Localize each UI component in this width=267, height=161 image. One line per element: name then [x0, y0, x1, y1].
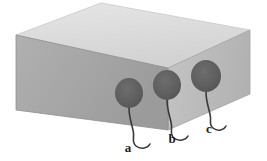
marker-a-blob	[115, 78, 143, 108]
marker-c-label: c	[206, 121, 212, 136]
figure-container: abc Rectangular block with three attache…	[0, 0, 267, 161]
marker-b-label: b	[168, 131, 175, 146]
marker-c-blob	[191, 60, 221, 92]
marker-b-blob	[153, 70, 181, 100]
block-illustration: abc	[0, 0, 267, 161]
marker-a-label: a	[125, 140, 132, 155]
